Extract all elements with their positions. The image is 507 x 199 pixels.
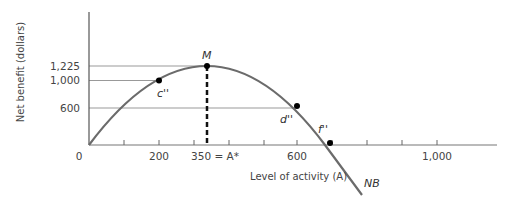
label-nb: NB [364,177,380,190]
y-axis-title: Net benefit (dollars) [15,22,26,122]
x-label-1000: 1,000 [422,150,452,162]
y-label-1000: 1,000 [50,74,80,86]
point-f [327,140,333,146]
x-axis-title: Level of activity (A) [250,171,347,182]
y-label-600: 600 [60,102,80,114]
y-label-1225: 1,225 [50,60,80,72]
x-label-0: 0 [76,150,83,162]
label-M: M [202,49,212,62]
point-M [204,63,210,69]
x-label-350: 350 = A* [191,150,239,162]
x-label-600: 600 [287,150,307,162]
net-benefit-chart: c'' M d'' f'' NB 1,225 1,000 600 0 200 3… [0,0,507,199]
point-c [156,78,162,84]
label-d: d'' [280,113,293,126]
label-f: f'' [318,123,328,136]
point-d [294,103,300,109]
x-ticks [124,140,437,145]
x-label-200: 200 [149,150,169,162]
label-c: c'' [157,87,169,100]
